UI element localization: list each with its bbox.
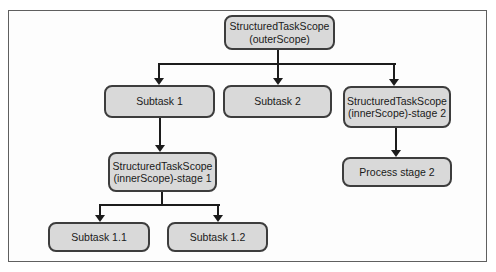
node-subtask-1-1: Subtask 1.1 [48,222,150,252]
connector-drop-inner-scope-2 [393,63,395,80]
node-label: (innerScope)-stage 2 [348,107,446,120]
arrowhead-down-icon [391,150,401,157]
connector-drop-subtask-2 [277,63,279,79]
arrowhead-down-icon [273,78,283,85]
node-label: Subtask 2 [254,95,301,108]
node-label: (outerScope) [249,33,310,46]
node-subtask-1: Subtask 1 [104,85,215,118]
arrowhead-down-icon [154,78,164,85]
diagram-canvas: StructuredTaskScope (outerScope) Subtask… [0,0,496,272]
arrowhead-down-icon [389,79,399,86]
node-label: StructuredTaskScope [347,95,447,108]
node-label: StructuredTaskScope [113,160,213,173]
node-outer-scope: StructuredTaskScope (outerScope) [224,15,335,50]
arrowhead-down-icon [213,215,223,222]
node-label: Subtask 1.2 [190,231,245,244]
node-label: Process stage 2 [359,166,434,179]
connector-inner-scope2-process2 [395,128,397,151]
node-label: (innerScope)-stage 1 [113,172,211,185]
node-process-stage-2: Process stage 2 [342,157,452,187]
node-label: Subtask 1.1 [71,231,126,244]
node-label: StructuredTaskScope [230,20,330,33]
connector-bottom-branch [99,204,220,206]
arrowhead-down-icon [155,145,165,152]
node-inner-scope-stage-1: StructuredTaskScope (innerScope)-stage 1 [108,152,217,192]
node-label: Subtask 1 [136,95,183,108]
arrowhead-down-icon [95,215,105,222]
node-subtask-1-2: Subtask 1.2 [167,222,268,252]
node-subtask-2: Subtask 2 [223,85,332,118]
connector-drop-subtask-1 [158,63,160,79]
node-inner-scope-stage-2: StructuredTaskScope (innerScope)-stage 2 [343,86,451,128]
connector-subtask1-inner-scope1 [159,118,161,146]
